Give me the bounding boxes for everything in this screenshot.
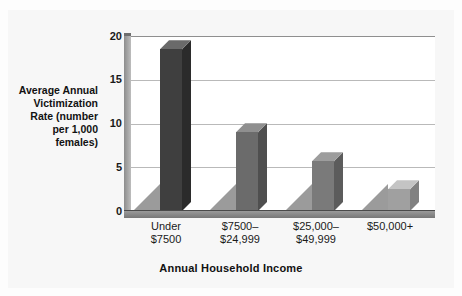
- x-tick-1-line-2: $24,999: [197, 233, 283, 246]
- y-tick-0: 0: [96, 206, 122, 217]
- x-tick-1-line-1: $7500–: [197, 220, 283, 233]
- bar-0-front: [160, 49, 182, 211]
- bar-1-side: [258, 123, 267, 211]
- bar-0-side: [182, 40, 191, 211]
- bar-0-shadow: [133, 184, 160, 211]
- bar-2-side: [334, 152, 343, 211]
- x-tick-7500-24999: $7500– $24,999: [197, 220, 283, 246]
- bar-2-front: [312, 161, 334, 211]
- bar-3-front: [388, 189, 410, 211]
- x-axis-title: Annual Household Income: [0, 262, 462, 274]
- bar-3: [388, 36, 410, 211]
- bar-2-shadow: [285, 184, 312, 211]
- y-axis-wall-cap: [124, 33, 131, 36]
- bar-1-shadow: [209, 184, 236, 211]
- y-axis-tick-labels: 20 15 10 5 0: [96, 0, 122, 296]
- y-tick-10: 10: [96, 118, 122, 129]
- floor-slab: [124, 211, 435, 218]
- x-axis-tick-labels: Under $7500 $7500– $24,999 $25,000– $49,…: [131, 220, 435, 256]
- y-tick-5: 5: [96, 162, 122, 173]
- bar-3-shadow: [361, 184, 388, 211]
- y-tick-15: 15: [96, 74, 122, 85]
- y-axis-title-line-1: Average Annual: [19, 84, 98, 96]
- y-axis-wall: [124, 33, 131, 214]
- x-tick-3-line-1: $50,000+: [347, 220, 433, 233]
- y-axis-title-line-2: Victimization: [33, 97, 98, 109]
- x-tick-2-line-2: $49,999: [273, 233, 359, 246]
- bar-2: [312, 36, 334, 211]
- bar-0: [160, 36, 182, 211]
- y-tick-20: 20: [96, 31, 122, 42]
- bar-chart-figure: Average Annual Victimization Rate (numbe…: [0, 0, 462, 296]
- x-tick-50000-plus: $50,000+: [347, 220, 433, 233]
- bar-1: [236, 36, 258, 211]
- y-axis-title-line-3: Rate: [30, 110, 53, 122]
- plot-area: [131, 36, 435, 211]
- y-axis-title: Average Annual Victimization Rate (numbe…: [14, 84, 98, 149]
- bar-1-front: [236, 132, 258, 211]
